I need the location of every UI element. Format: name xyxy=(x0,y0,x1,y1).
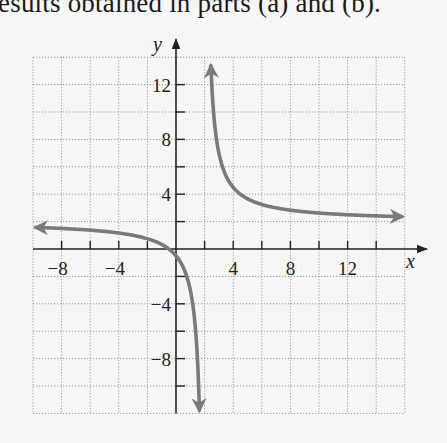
x-tick-label: −8 xyxy=(47,258,67,279)
y-tick-label: −4 xyxy=(151,294,172,315)
x-tick-label: 12 xyxy=(338,258,357,279)
x-axis-label: x xyxy=(405,250,415,272)
y-tick-label: 8 xyxy=(162,129,172,150)
x-tick-label: 4 xyxy=(228,258,238,279)
chart: −8−448121284−4−8xy xyxy=(0,0,447,443)
x-tick-label: 8 xyxy=(286,258,296,279)
y-tick-label: 12 xyxy=(152,75,171,96)
y-tick-label: 4 xyxy=(162,184,172,205)
curve-left-branch xyxy=(36,227,200,410)
y-axis-label: y xyxy=(151,33,162,56)
x-tick-label: −4 xyxy=(105,258,126,279)
y-tick-label: −8 xyxy=(151,349,171,370)
